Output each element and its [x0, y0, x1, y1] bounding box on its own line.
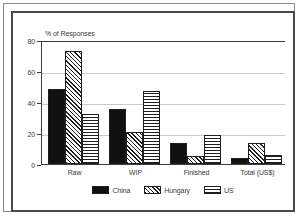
bar-us-wip[interactable]: [143, 91, 160, 164]
legend-item-china[interactable]: China: [92, 186, 130, 194]
legend-item-us[interactable]: US: [204, 186, 234, 194]
x-tick-label-finished: Finished: [169, 169, 224, 176]
bar-hungary-raw[interactable]: [65, 51, 82, 164]
bar-china-raw[interactable]: [48, 89, 65, 164]
y-tick-label-80: 80: [5, 38, 35, 45]
bar-group-raw: [48, 42, 103, 164]
y-tick-mark-0: [37, 165, 41, 166]
y-axis-title: % of Responses: [45, 30, 95, 37]
legend-label-hungary: Hungary: [164, 187, 190, 194]
bar-china-finished[interactable]: [170, 143, 187, 164]
x-tick-label-raw: Raw: [47, 169, 102, 176]
bar-group-finished: [170, 42, 225, 164]
plot-area: [41, 41, 285, 165]
x-tick-label-wip: WIP: [108, 169, 163, 176]
legend-swatch-hungary-icon: [144, 186, 161, 194]
legend-swatch-china-icon: [92, 186, 109, 194]
chart-legend: China Hungary US: [41, 186, 285, 194]
bar-group-wip: [109, 42, 164, 164]
x-tick-label-total: Total (US$): [230, 169, 285, 176]
legend-label-china: China: [112, 187, 130, 194]
bar-us-raw[interactable]: [82, 114, 99, 164]
bar-chart: % of Responses 80 60 40 20 0: [0, 0, 300, 217]
bar-hungary-wip[interactable]: [126, 132, 143, 164]
y-tick-label-0: 0: [5, 162, 35, 169]
y-tick-label-40: 40: [5, 100, 35, 107]
bar-hungary-finished[interactable]: [187, 156, 204, 164]
legend-item-hungary[interactable]: Hungary: [144, 186, 190, 194]
bar-china-wip[interactable]: [109, 109, 126, 164]
bar-us-total[interactable]: [265, 155, 282, 164]
legend-swatch-us-icon: [204, 186, 221, 194]
bar-hungary-total[interactable]: [248, 143, 265, 164]
legend-label-us: US: [224, 187, 234, 194]
bar-group-total: [231, 42, 286, 164]
y-tick-label-20: 20: [5, 131, 35, 138]
y-tick-label-60: 60: [5, 69, 35, 76]
bar-us-finished[interactable]: [204, 135, 221, 164]
bar-china-total[interactable]: [231, 158, 248, 164]
